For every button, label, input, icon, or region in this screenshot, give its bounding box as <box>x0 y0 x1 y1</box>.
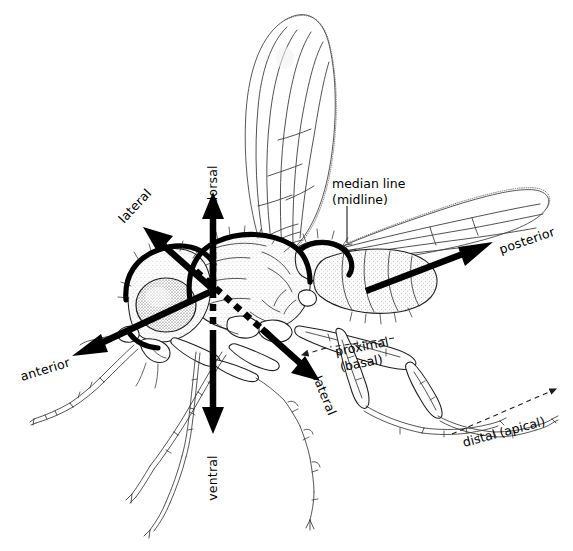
median-line-text-1: median line <box>332 176 406 191</box>
foreleg-far <box>144 352 200 538</box>
midleg <box>126 344 279 503</box>
raised-wing <box>245 15 336 256</box>
axis-label-dorsal: dorsal <box>205 165 220 205</box>
anatomical-direction-figure: dorsal ventral anterior posterior latera… <box>0 0 573 551</box>
foreleg-front <box>30 345 138 425</box>
axis-label-anterior: anterior <box>18 354 72 383</box>
head <box>80 240 211 388</box>
median-line-text-2: (midline) <box>332 192 388 207</box>
axis-label-ventral: ventral <box>205 455 220 501</box>
callout-label-median-line: median line (midline) <box>332 176 406 207</box>
fly-diagram-svg: dorsal ventral anterior posterior latera… <box>0 0 573 551</box>
axis-label-lateral-lower-right: lateral <box>310 374 339 418</box>
axis-label-lateral-upper-left: lateral <box>115 186 154 227</box>
